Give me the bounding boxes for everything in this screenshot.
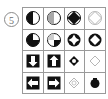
- square-with-left-arrow-cutout-icon: [25, 75, 41, 91]
- matrix-grid: [22, 7, 106, 94]
- matrix-cell-r3c4[interactable]: [85, 51, 106, 73]
- filled-circle-star-cutout-icon: [87, 32, 103, 48]
- matrix-cell-r1c4[interactable]: [85, 8, 106, 30]
- square-with-right-arrow-cutout-icon: [46, 75, 62, 91]
- matrix-cell-r2c1[interactable]: [23, 30, 44, 52]
- small-diamond-outline-icon: [87, 53, 103, 69]
- matrix-cell-r4c1[interactable]: [23, 73, 44, 95]
- small-diamond-ring-icon: [66, 53, 82, 69]
- circle-with-star-cutout-icon: [66, 32, 82, 48]
- matrix-cell-r1c2[interactable]: [44, 8, 65, 30]
- matrix-cell-r3c3[interactable]: [65, 51, 86, 73]
- matrix-cell-r4c2[interactable]: [44, 73, 65, 95]
- matrix-cell-r2c3[interactable]: [65, 30, 86, 52]
- square-with-up-arrow-cutout-icon: [46, 53, 62, 69]
- matrix-cell-r1c3[interactable]: [65, 8, 86, 30]
- matrix-cell-r2c4[interactable]: [85, 30, 106, 52]
- circle-three-quarter-filled-icon: [25, 32, 41, 48]
- circle-with-solid-diamond-icon: [66, 10, 82, 26]
- matrix-cell-r1c1[interactable]: [23, 8, 44, 30]
- matrix-cell-r3c2[interactable]: [44, 51, 65, 73]
- matrix-cell-r2c2[interactable]: [44, 30, 65, 52]
- matrix-cell-r4c4[interactable]: [85, 73, 106, 95]
- circle-with-light-diamond-icon: [87, 10, 103, 26]
- circle-quarter-filled-faint-icon: [46, 32, 62, 48]
- circle-half-filled-left-icon: [25, 10, 41, 26]
- matrix-puzzle-figure: 5: [0, 0, 108, 99]
- matrix-cell-r3c1[interactable]: [23, 51, 44, 73]
- circle-half-filled-left-faint-icon: [46, 10, 62, 26]
- filled-circle-notched-icon: [87, 75, 103, 91]
- square-with-down-arrow-cutout-icon: [25, 53, 41, 69]
- matrix-cell-r4c3[interactable]: [65, 73, 86, 95]
- item-number-badge: 5: [4, 12, 19, 27]
- small-diamond-outline-icon: [66, 75, 82, 91]
